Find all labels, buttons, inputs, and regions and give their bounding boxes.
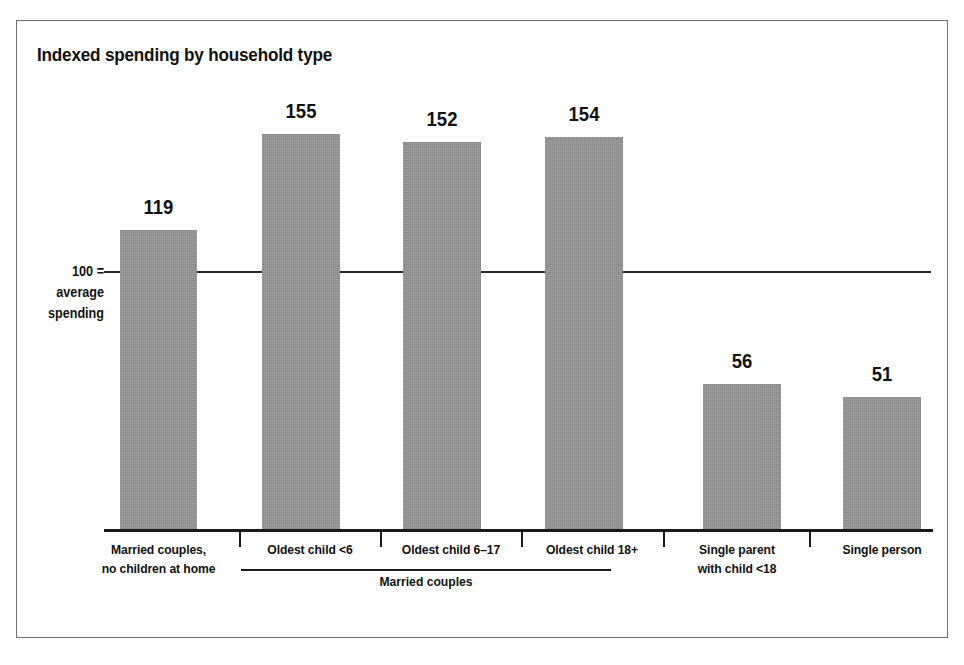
x-axis-label-line: Single parent (675, 540, 799, 559)
bar-oldest-child-18-plus (545, 137, 623, 530)
x-axis-label: Single parent with child <18 (675, 540, 799, 578)
x-axis-label-line: no children at home (89, 559, 229, 578)
bar-value-label: 56 (708, 349, 777, 373)
reference-line-label-line-1: 100 = (28, 261, 104, 282)
axis-tick (521, 532, 523, 547)
x-axis-label-line: Single person (820, 540, 944, 559)
bar-value-label: 155 (267, 99, 336, 123)
chart-screenshot: Indexed spending by household type 100 =… (0, 0, 964, 665)
group-bracket-line (241, 569, 611, 571)
x-axis-label-line: Oldest child 18+ (530, 540, 654, 559)
x-axis-label-line: Oldest child <6 (248, 540, 372, 559)
x-axis-label: Single person (820, 540, 944, 559)
x-axis-label: Oldest child <6 (248, 540, 372, 559)
plot-area: 100 = average spending 119 155 152 154 5… (0, 0, 964, 665)
reference-line-label-line-3: spending (28, 303, 104, 324)
axis-tick (239, 532, 241, 547)
reference-line-label-line-2: average (28, 282, 104, 303)
bar-oldest-child-under-6 (262, 134, 340, 530)
axis-tick (380, 532, 382, 547)
x-axis-label-line: with child <18 (675, 559, 799, 578)
bar-value-label: 119 (125, 195, 193, 219)
bar-single-person (843, 397, 921, 530)
x-axis-label: Married couples, no children at home (89, 540, 229, 578)
bar-oldest-child-6-17 (403, 142, 481, 530)
x-axis-label-line: Married couples, (89, 540, 229, 559)
axis-tick (663, 532, 665, 547)
bar-value-label: 154 (550, 102, 619, 126)
x-axis-label: Oldest child 6–17 (389, 540, 513, 559)
reference-line-100 (128, 271, 931, 273)
x-axis-label-line: Oldest child 6–17 (389, 540, 513, 559)
x-axis-label: Oldest child 18+ (530, 540, 654, 559)
bar-single-parent (703, 384, 781, 530)
bar-married-no-children (120, 230, 197, 530)
bar-value-label: 152 (408, 107, 477, 131)
group-label-married-couples: Married couples (260, 574, 593, 589)
axis-tick (809, 532, 811, 547)
bar-value-label: 51 (848, 362, 917, 386)
reference-line-label: 100 = average spending (28, 261, 104, 324)
